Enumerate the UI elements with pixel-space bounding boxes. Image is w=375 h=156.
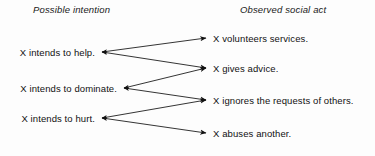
act-label-advice: X gives advice. (213, 63, 278, 74)
link-help-to-advice (102, 52, 206, 68)
link-hurt-to-ignores (102, 100, 206, 118)
link-hurt-to-abuses (102, 118, 206, 133)
intention-label-dominate: X intends to dominate. (20, 83, 117, 94)
connector-lines (0, 0, 375, 156)
act-label-volunteers: X volunteers services. (213, 33, 308, 44)
link-help-to-volunteers (102, 38, 206, 52)
intention-label-help: X intends to help. (20, 47, 95, 58)
column-header-possible-intention: Possible intention (33, 4, 110, 15)
link-dominate-to-advice (124, 68, 206, 88)
diagram-canvas: Possible intention Observed social act X… (0, 0, 375, 156)
act-label-abuses: X abuses another. (213, 128, 291, 139)
intention-label-hurt: X intends to hurt. (21, 113, 95, 124)
column-header-observed-social-act: Observed social act (240, 4, 326, 15)
link-dominate-to-ignores (124, 88, 206, 100)
act-label-ignores: X ignores the requests of others. (213, 95, 354, 106)
